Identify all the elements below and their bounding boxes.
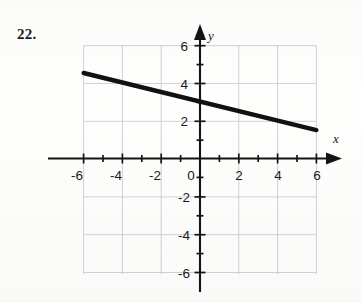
x-axis-label: x [332, 131, 339, 146]
x-axis-arrow [326, 153, 342, 165]
x-tick-label: -4 [110, 168, 122, 183]
graph-svg: x y -6 -4 -2 0 2 4 6 6 4 2 -2 -4 -6 [0, 0, 362, 303]
x-tick-label: -6 [71, 168, 83, 183]
y-axis-label: y [206, 28, 214, 43]
x-tick-label: 2 [235, 168, 243, 183]
y-axis-arrow [194, 24, 206, 40]
y-tick-label: -6 [178, 266, 190, 281]
x-tick-labels: -6 -4 -2 0 2 4 6 [71, 168, 321, 183]
x-tick-label-origin: 0 [187, 168, 195, 183]
y-tick-label: 4 [180, 77, 188, 92]
x-tick-label: -2 [149, 168, 161, 183]
y-tick-label: 6 [180, 39, 188, 54]
worksheet-page: 22. [0, 0, 362, 303]
x-tick-label: 6 [313, 168, 321, 183]
y-tick-label: -2 [178, 190, 190, 205]
y-tick-label: -4 [178, 228, 190, 243]
x-tick-label: 4 [274, 168, 282, 183]
x-axis [48, 153, 342, 165]
y-tick-label: 2 [180, 114, 188, 129]
coordinate-graph: x y -6 -4 -2 0 2 4 6 6 4 2 -2 -4 -6 [0, 0, 362, 303]
